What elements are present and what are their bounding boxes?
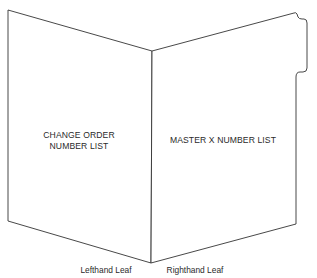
lefthand-leaf-caption: Lefthand Leaf bbox=[80, 265, 132, 275]
folder-diagram: CHANGE ORDER NUMBER LIST MASTER X NUMBER… bbox=[0, 0, 317, 278]
righthand-leaf-label: MASTER X NUMBER LIST bbox=[170, 135, 277, 145]
lefthand-leaf-label-line-2: NUMBER LIST bbox=[50, 141, 110, 151]
lefthand-leaf-label-line-1: CHANGE ORDER bbox=[43, 130, 114, 140]
righthand-leaf-caption: Righthand Leaf bbox=[167, 265, 224, 275]
